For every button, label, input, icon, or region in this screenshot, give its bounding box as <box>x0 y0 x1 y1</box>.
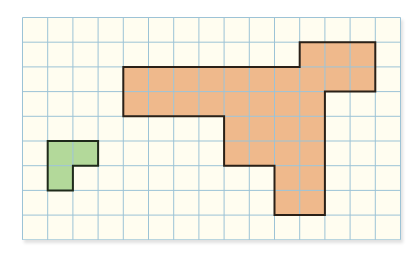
shape-cell <box>274 141 299 166</box>
shape-cell <box>48 141 73 166</box>
shape-cell <box>73 141 98 166</box>
shape-cell <box>123 92 148 117</box>
shape-cell <box>300 42 325 67</box>
shape-cell <box>224 92 249 117</box>
shape-cell <box>300 116 325 141</box>
shape-cell <box>249 141 274 166</box>
shape-cell <box>199 67 224 92</box>
shape-cell <box>350 67 375 92</box>
shape-cell <box>249 92 274 117</box>
shape-cell <box>274 116 299 141</box>
shape-cell <box>48 166 73 191</box>
shape-cell <box>274 190 299 215</box>
shape-cell <box>149 67 174 92</box>
shape-cell <box>199 92 224 117</box>
shape-cell <box>300 67 325 92</box>
shape-cell <box>224 141 249 166</box>
shape-cell <box>274 92 299 117</box>
shape-cell <box>123 67 148 92</box>
shape-cell <box>325 42 350 67</box>
shape-cell <box>300 166 325 191</box>
shape-cell <box>300 190 325 215</box>
shape-cell <box>350 42 375 67</box>
shape-cell <box>174 67 199 92</box>
shape-cell <box>325 67 350 92</box>
shape-cell <box>249 67 274 92</box>
shape-cell <box>224 67 249 92</box>
shape-cell <box>249 116 274 141</box>
shape-cell <box>149 92 174 117</box>
shape-cell <box>174 92 199 117</box>
grid-diagram <box>22 17 401 240</box>
grid-paper <box>22 17 401 240</box>
shape-cell <box>274 166 299 191</box>
shape-cell <box>300 141 325 166</box>
shape-cell <box>300 92 325 117</box>
shape-cell <box>224 116 249 141</box>
shape-cell <box>274 67 299 92</box>
